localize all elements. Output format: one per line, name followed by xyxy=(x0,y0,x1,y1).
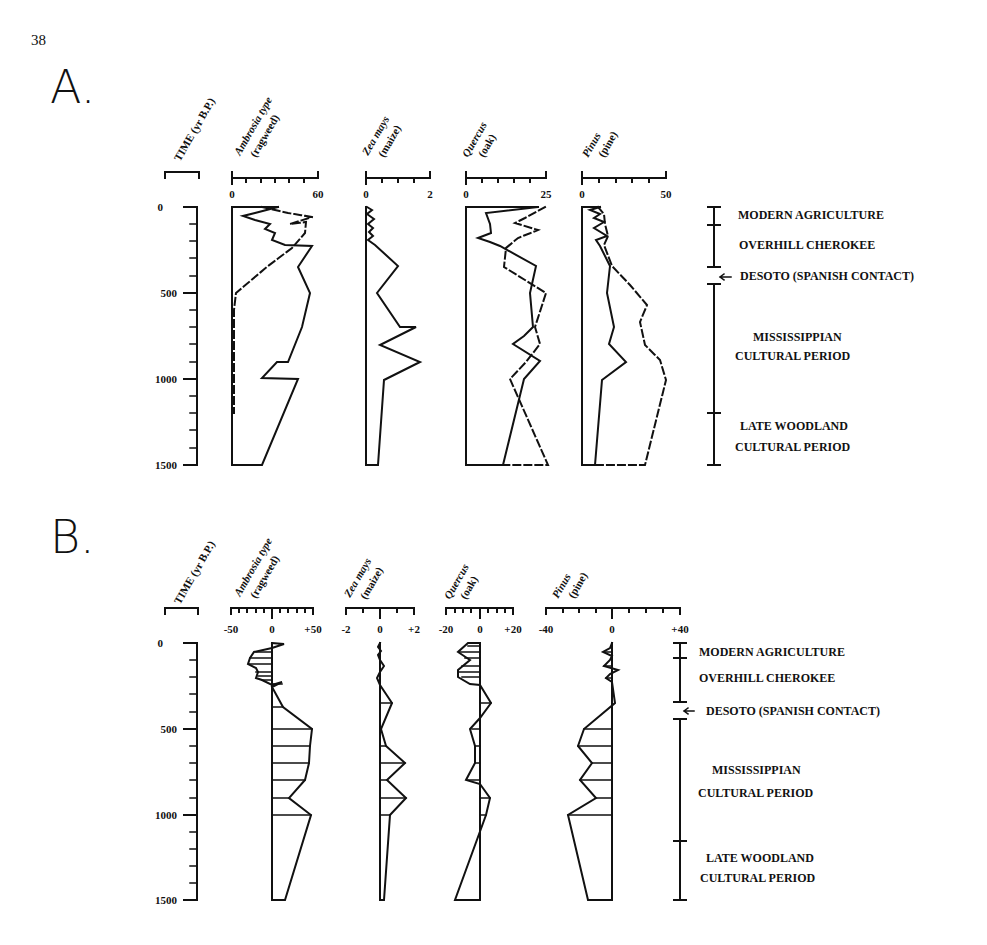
time-bracket xyxy=(165,172,199,178)
ambrosia-tick-max: 60 xyxy=(313,188,325,200)
time-major-ticks-b xyxy=(184,643,197,900)
quercus-b-tick-min: -20 xyxy=(439,623,454,635)
panel-b-period-labels: MODERN AGRICULTURE OVERHILL CHEROKEE DES… xyxy=(698,645,880,885)
panel-b-scales xyxy=(231,608,680,618)
zea-tick-min: 0 xyxy=(363,188,369,200)
panel-b-period-bar xyxy=(674,643,694,900)
period-late-woodland-2: CULTURAL PERIOD xyxy=(735,440,851,454)
quercus-b-tick-max: +20 xyxy=(504,623,522,635)
ambrosia-b-plot xyxy=(248,643,312,900)
zea-b-tick-max: +2 xyxy=(408,623,420,635)
pinus-b-tick-zero: 0 xyxy=(609,623,615,635)
time-tick-1500: 1500 xyxy=(155,459,178,471)
period-late-woodland: LATE WOODLAND xyxy=(740,419,848,433)
time-minor-ticks-b xyxy=(190,660,197,883)
pinus-common-b: (pine) xyxy=(565,570,590,601)
panel-a: TIME (yr B.P.) Ambrosia type (ragweed) Z… xyxy=(155,95,731,471)
figure-svg: TIME (yr B.P.) Ambrosia type (ragweed) Z… xyxy=(0,0,987,945)
period-desoto-b: DESOTO (SPANISH CONTACT) xyxy=(706,704,880,718)
panel-a-scales xyxy=(232,172,666,184)
pinus-b-plot xyxy=(568,643,618,900)
ambrosia-b-tick-zero: 0 xyxy=(269,623,275,635)
time-axis-title: TIME (yr B.P.) xyxy=(171,95,218,163)
pinus-common: (pine) xyxy=(595,129,620,160)
panel-a-period-bar xyxy=(708,207,731,465)
zea-b-tick-min: -2 xyxy=(341,623,351,635)
time-tick-1000-b: 1000 xyxy=(155,809,178,821)
quercus-b-plot xyxy=(455,643,491,900)
pinus-a-plot xyxy=(582,207,666,465)
zea-a-plot xyxy=(366,207,420,465)
desoto-arrow-icon xyxy=(720,274,731,280)
time-bracket-b xyxy=(165,608,198,614)
time-minor-ticks xyxy=(190,224,197,448)
quercus-tick-min: 0 xyxy=(463,188,469,200)
quercus-b-tick-zero: 0 xyxy=(477,623,483,635)
time-tick-500-b: 500 xyxy=(161,723,178,735)
panel-a-headers: TIME (yr B.P.) Ambrosia type (ragweed) Z… xyxy=(171,95,620,164)
period-mississippian-b: MISSISSIPPIAN xyxy=(712,763,801,777)
quercus-a-plot xyxy=(466,207,548,465)
time-major-ticks xyxy=(184,207,197,465)
zea-b-tick-zero: 0 xyxy=(377,623,383,635)
time-tick-500: 500 xyxy=(161,287,178,299)
period-modern-agriculture-b: MODERN AGRICULTURE xyxy=(699,645,845,659)
time-tick-0: 0 xyxy=(158,201,164,213)
period-mississippian-2-b: CULTURAL PERIOD xyxy=(698,786,814,800)
period-mississippian: MISSISSIPPIAN xyxy=(753,330,842,344)
ambrosia-b-tick-min: -50 xyxy=(224,623,239,635)
panel-a-period-labels: MODERN AGRICULTURE OVERHILL CHEROKEE DES… xyxy=(735,208,914,454)
pinus-b-tick-min: -40 xyxy=(539,623,554,635)
period-modern-agriculture: MODERN AGRICULTURE xyxy=(738,208,884,222)
pinus-b-tick-max: +40 xyxy=(671,623,689,635)
period-late-woodland-2-b: CULTURAL PERIOD xyxy=(700,871,816,885)
quercus-tick-max: 25 xyxy=(541,188,553,200)
time-tick-1000: 1000 xyxy=(155,373,178,385)
ambrosia-b-tick-max: +50 xyxy=(304,623,322,635)
panel-b: TIME (yr B.P.) Ambrosia type (ragweed) Z… xyxy=(155,536,694,906)
pinus-tick-min: 0 xyxy=(579,188,585,200)
ambrosia-a-plot xyxy=(232,207,312,465)
zea-tick-max: 2 xyxy=(427,188,433,200)
pinus-tick-max: 50 xyxy=(661,188,673,200)
time-tick-1500-b: 1500 xyxy=(155,894,178,906)
period-overhill-cherokee: OVERHILL CHEROKEE xyxy=(739,238,875,252)
time-axis-title-b: TIME (yr B.P.) xyxy=(171,538,218,606)
zea-b-plot xyxy=(377,643,406,900)
ambrosia-tick-min: 0 xyxy=(229,188,235,200)
period-late-woodland-b: LATE WOODLAND xyxy=(706,851,814,865)
desoto-arrow-icon-b xyxy=(684,708,694,714)
period-mississippian-2: CULTURAL PERIOD xyxy=(735,349,851,363)
period-overhill-cherokee-b: OVERHILL CHEROKEE xyxy=(699,671,835,685)
period-desoto: DESOTO (SPANISH CONTACT) xyxy=(740,269,914,283)
time-tick-0-b: 0 xyxy=(158,637,164,649)
